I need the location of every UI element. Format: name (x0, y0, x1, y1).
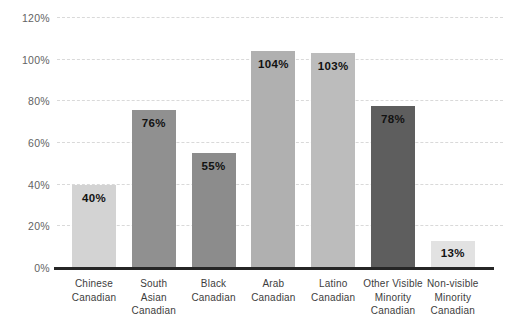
bar-value-label: 55% (192, 153, 236, 172)
y-axis-tick-label-40%: 40% (8, 179, 50, 191)
bar-other visible-minority-canadian: 78% (371, 106, 415, 269)
x-axis-category-label-line: Canadian (114, 304, 194, 318)
bar-value-label: 78% (371, 106, 415, 125)
y-axis-tick-label-20%: 20% (8, 220, 50, 232)
bar-latino-canadian: 103% (311, 53, 355, 268)
x-axis-category-label: Non-visibleMinorityCanadian (413, 277, 493, 318)
gridline-120% (57, 17, 503, 18)
y-axis-tick-label-100%: 100% (8, 54, 50, 66)
bar-value-label: 40% (72, 185, 116, 204)
y-axis-tick-label-0%: 0% (8, 262, 50, 274)
x-axis-line (54, 267, 494, 270)
x-axis-category-label-line: Non-visible (413, 277, 493, 291)
bar-chart: 40%76%55%104%103%78%13% 0%20%40%60%80%10… (0, 0, 518, 332)
bar-value-label: 76% (132, 110, 176, 129)
x-axis-category-label-line: Canadian (413, 304, 493, 318)
x-axis-category-label-line: Minority (413, 291, 493, 305)
bar-non-visible-minority-canadian: 13% (431, 241, 475, 268)
y-axis-tick-label-80%: 80% (8, 95, 50, 107)
bar-arab-canadian: 104% (251, 51, 295, 268)
bar-value-label: 103% (311, 53, 355, 72)
bar-black-canadian: 55% (192, 153, 236, 268)
plot-area: 40%76%55%104%103%78%13% (57, 18, 493, 268)
bar-south-asian-canadian: 76% (132, 110, 176, 268)
bar-value-label: 13% (431, 241, 475, 259)
bar-value-label: 104% (251, 51, 295, 70)
y-axis-tick-label-120%: 120% (8, 12, 50, 24)
bar-chinese-canadian: 40% (72, 185, 116, 268)
y-axis-tick-label-60%: 60% (8, 137, 50, 149)
